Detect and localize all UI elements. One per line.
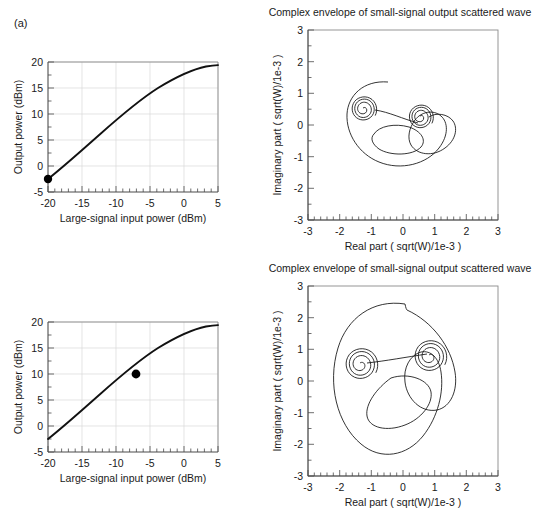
y-tick-label: 1 xyxy=(297,343,303,355)
plot-title-bottom-right: Complex envelope of small-signal output … xyxy=(269,262,532,274)
x-axis-title-top-right: Real part ( sqrt(W)/1e-3 ) xyxy=(345,240,462,252)
x-tick-label: -5 xyxy=(145,457,154,469)
y-tick-label: 15 xyxy=(31,342,43,354)
y-tick-label: 10 xyxy=(31,368,43,380)
x-tick-label: 0 xyxy=(181,457,187,469)
x-tick-label: 1 xyxy=(432,225,438,237)
y-tick-label: 0 xyxy=(37,420,43,432)
x-axis-title-bottom-left: Large-signal input power (dBm) xyxy=(60,472,207,484)
x-tick-label: 0 xyxy=(181,197,187,209)
x-tick-label: 3 xyxy=(495,481,501,493)
x-tick-label: -1 xyxy=(367,225,376,237)
panel-label-a: (a) xyxy=(14,17,27,29)
chart-power-transfer-top: -5 0 5 10 15 20 -20 -15 -10 -5 0 5 Large… xyxy=(0,40,250,225)
plot-area-top-right: 3 2 1 0 -1 -2 -3 -3 -2 -1 0 1 2 3 Real p… xyxy=(271,24,501,252)
y-tick-label: 1 xyxy=(297,87,303,99)
x-tick-label: -15 xyxy=(74,197,89,209)
y-tick-label: 3 xyxy=(297,280,303,292)
y-tick-label: 5 xyxy=(37,394,43,406)
x-tick-label: -3 xyxy=(303,481,312,493)
y-tick-label: 0 xyxy=(37,160,43,172)
operating-point-marker-top-left xyxy=(44,175,52,183)
y-tick-label: 0 xyxy=(297,375,303,387)
x-tick-label: 2 xyxy=(463,225,469,237)
envelope-trajectory-bottom xyxy=(334,303,456,454)
y-ticks-bottom-left xyxy=(48,322,54,452)
x-tick-label: -1 xyxy=(367,481,376,493)
ticks-bottom-right xyxy=(308,286,498,476)
y-tick-label: 3 xyxy=(297,24,303,36)
gridlines-bottom-left xyxy=(48,322,218,452)
plot-area-top-left: -5 0 5 10 15 20 -20 -15 -10 -5 0 5 Large… xyxy=(12,56,221,224)
plot-frame-bottom-right xyxy=(308,286,498,476)
x-tick-label: -2 xyxy=(335,481,344,493)
x-tick-label: -2 xyxy=(335,225,344,237)
gridlines-top-left xyxy=(48,62,218,192)
y-ticks-top-left xyxy=(48,62,54,192)
y-tick-label: 15 xyxy=(31,82,43,94)
chart-complex-envelope-bottom: Complex envelope of small-signal output … xyxy=(255,258,545,513)
envelope-trajectory-top xyxy=(347,82,456,166)
y-tick-label: 20 xyxy=(31,56,43,68)
y-tick-label: 20 xyxy=(31,316,43,328)
x-tick-label: -10 xyxy=(108,197,123,209)
x-tick-label: -15 xyxy=(74,457,89,469)
y-tick-label: -1 xyxy=(294,407,303,419)
x-tick-label: 0 xyxy=(400,225,406,237)
plot-frame-bottom-left xyxy=(48,322,218,452)
y-tick-label: -2 xyxy=(294,182,303,194)
y-tick-label: 5 xyxy=(37,134,43,146)
plot-title-top-right: Complex envelope of small-signal output … xyxy=(269,6,532,18)
data-curve-bottom-left xyxy=(48,325,218,439)
x-tick-label: -10 xyxy=(108,457,123,469)
spiral-focus-left-bottom xyxy=(346,349,378,379)
x-tick-label: 5 xyxy=(215,197,221,209)
x-tick-label: -3 xyxy=(303,225,312,237)
y-axis-title-bottom-left: Output power (dBm) xyxy=(12,340,24,435)
y-axis-title-top-right: Imaginary part ( sqrt(W)/1e-3 ) xyxy=(271,54,283,195)
y-tick-label: 2 xyxy=(297,312,303,324)
y-tick-label: -3 xyxy=(294,470,303,482)
y-axis-title-top-left: Output power (dBm) xyxy=(12,80,24,175)
x-tick-label: 1 xyxy=(432,481,438,493)
y-tick-label: -3 xyxy=(294,214,303,226)
y-tick-label: 0 xyxy=(297,119,303,131)
operating-point-marker-bottom-left xyxy=(132,370,141,379)
spiral-focus-left-top xyxy=(352,97,376,120)
x-tick-label: -20 xyxy=(40,457,55,469)
x-tick-label: 5 xyxy=(215,457,221,469)
ticks-top-right xyxy=(308,30,498,220)
chart-complex-envelope-top: Complex envelope of small-signal output … xyxy=(255,2,545,252)
x-axis-title-top-left: Large-signal input power (dBm) xyxy=(60,212,207,224)
chart-power-transfer-bottom: -5 0 5 10 15 20 -20 -15 -10 -5 0 5 Large… xyxy=(0,300,250,490)
x-tick-label: 0 xyxy=(400,481,406,493)
plot-frame-top-left xyxy=(48,62,218,192)
x-tick-label: -20 xyxy=(40,197,55,209)
y-tick-label: -2 xyxy=(294,438,303,450)
plot-area-bottom-left: -5 0 5 10 15 20 -20 -15 -10 -5 0 5 Large… xyxy=(12,316,221,484)
y-tick-label: 2 xyxy=(297,56,303,68)
y-tick-label: 10 xyxy=(31,108,43,120)
y-axis-title-bottom-right: Imaginary part ( sqrt(W)/1e-3 ) xyxy=(271,310,283,451)
data-curve-top-left xyxy=(48,65,218,179)
x-tick-label: -5 xyxy=(145,197,154,209)
plot-frame-top-right xyxy=(308,30,498,220)
x-tick-label: 2 xyxy=(463,481,469,493)
y-tick-label: -1 xyxy=(294,151,303,163)
plot-area-bottom-right: 3 2 1 0 -1 -2 -3 -3 -2 -1 0 1 2 3 Real p… xyxy=(271,280,501,508)
x-ticks-top-left xyxy=(48,186,218,192)
x-axis-title-bottom-right: Real part ( sqrt(W)/1e-3 ) xyxy=(345,496,462,508)
spiral-focus-right-bottom xyxy=(415,341,447,371)
x-tick-label: 3 xyxy=(495,225,501,237)
x-ticks-bottom-left xyxy=(48,446,218,452)
